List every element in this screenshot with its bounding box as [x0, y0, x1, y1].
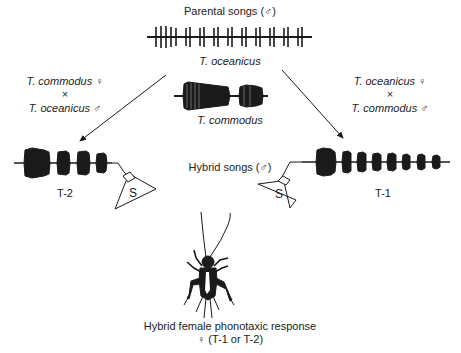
t1-waveform	[282, 148, 450, 177]
oceanicus-label: T. oceanicus	[180, 55, 280, 68]
left-cross-female: T. commodus ♀	[10, 75, 120, 88]
left-cross-male: T. oceanicus ♂	[10, 102, 120, 115]
hybrid-songs-label: Hybrid songs (♂)	[160, 161, 300, 174]
diagram-canvas	[0, 0, 461, 353]
right-cross-male: T. commodus ♂	[330, 102, 450, 115]
oceanicus-waveform	[147, 26, 312, 48]
left-cross-times: ×	[10, 88, 120, 101]
right-cross-times: ×	[330, 88, 450, 101]
t1-label: T-1	[363, 187, 403, 200]
commodus-waveform	[174, 82, 268, 110]
commodus-label: T. commodus	[170, 114, 290, 127]
parental-songs-title: Parental songs (♂)	[130, 5, 330, 18]
speaker-left-label: S	[126, 187, 140, 200]
t2-label: T-2	[45, 187, 85, 200]
speaker-right-label: S	[272, 188, 286, 201]
t2-waveform	[14, 148, 124, 178]
right-cross-female: T. oceanicus ♀	[330, 75, 450, 88]
cricket-icon	[184, 212, 234, 318]
response-line1: Hybrid female phonotaxic response	[110, 320, 350, 333]
response-line2: ♀ (T-1 or T-2)	[110, 333, 350, 346]
